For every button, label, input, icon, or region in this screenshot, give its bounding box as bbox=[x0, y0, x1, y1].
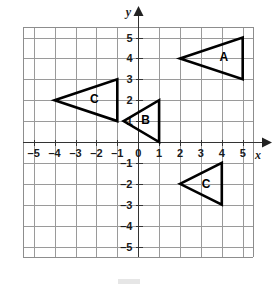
coordinate-plane-svg: –5–4–3–2–101234554321–1–2–3–4–5 xy ABCC bbox=[0, 0, 272, 287]
x-tick-label: 0 bbox=[135, 147, 141, 159]
x-tick-label: –2 bbox=[90, 147, 102, 159]
axis-names: xy bbox=[124, 5, 261, 162]
y-tick-label: 5 bbox=[126, 32, 132, 44]
x-tick-label: 4 bbox=[219, 147, 226, 159]
x-tick-label: –5 bbox=[28, 147, 40, 159]
y-tick-label: –3 bbox=[120, 199, 132, 211]
triangle-c-upper-label: C bbox=[90, 92, 99, 106]
axes bbox=[23, 6, 272, 257]
y-tick-label: –1 bbox=[120, 157, 132, 169]
x-tick-label: 5 bbox=[240, 147, 246, 159]
y-axis-label: y bbox=[124, 5, 132, 19]
x-axis-label: x bbox=[254, 148, 261, 162]
y-tick-label: 2 bbox=[126, 94, 132, 106]
x-tick-label: 1 bbox=[156, 147, 162, 159]
caption-artifact bbox=[118, 279, 140, 284]
y-tick-label: 3 bbox=[126, 73, 132, 85]
x-tick-label: 2 bbox=[177, 147, 183, 159]
x-tick-label: –3 bbox=[69, 147, 81, 159]
x-axis-arrow-icon bbox=[262, 138, 272, 148]
y-tick-label: –2 bbox=[120, 178, 132, 190]
y-tick-label: –4 bbox=[120, 220, 133, 232]
triangle-c-lower-label: C bbox=[202, 177, 211, 191]
coordinate-plane-figure: –5–4–3–2–101234554321–1–2–3–4–5 xy ABCC bbox=[0, 0, 272, 287]
y-tick-label: 4 bbox=[126, 52, 133, 64]
y-tick-label: –5 bbox=[120, 241, 132, 253]
triangle-a-label: A bbox=[220, 50, 229, 64]
y-axis-arrow-icon bbox=[134, 6, 144, 16]
triangle-b-label: B bbox=[141, 113, 150, 127]
x-tick-label: –4 bbox=[48, 147, 61, 159]
x-tick-label: 3 bbox=[198, 147, 204, 159]
